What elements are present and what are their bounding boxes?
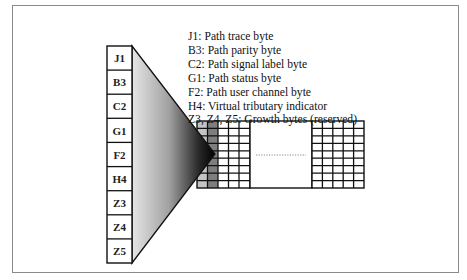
- byte-legend: J1: Path trace byte B3: Path parity byte…: [188, 30, 357, 127]
- byte-label-b3: B3: [113, 76, 126, 88]
- legend-item-c2: C2: Path signal label byte: [188, 58, 357, 72]
- byte-label-g1: G1: [112, 125, 126, 137]
- legend-item-z-growth: Z3, Z4, Z5: Growth bytes (reserved): [188, 113, 357, 127]
- byte-label-f2: F2: [113, 149, 126, 161]
- legend-item-h4: H4: Virtual tributary indicator: [188, 100, 357, 114]
- byte-label-h4: H4: [112, 173, 127, 185]
- byte-label-z4: Z4: [113, 221, 126, 233]
- byte-label-j1: J1: [114, 52, 125, 64]
- byte-label-z3: Z3: [113, 197, 126, 209]
- frame-grid-middle: [250, 121, 312, 188]
- frame-grid-right: [312, 121, 364, 188]
- byte-label-c2: C2: [113, 100, 127, 112]
- legend-item-f2: F2: Path user channel byte: [188, 86, 357, 100]
- legend-item-g1: G1: Path status byte: [188, 72, 357, 86]
- path-overhead-column: J1 B3 C2 G1 F2 H4 Z3 Z4 Z5: [107, 46, 132, 263]
- legend-item-b3: B3: Path parity byte: [188, 44, 357, 58]
- legend-item-j1: J1: Path trace byte: [188, 30, 357, 44]
- byte-label-z5: Z5: [113, 245, 126, 257]
